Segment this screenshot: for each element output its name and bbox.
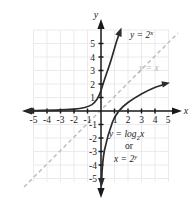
annotation-logarithm: y = log2x or x = 2y xyxy=(108,129,145,164)
log-alt-label-exponent: y xyxy=(133,153,138,160)
exponential-label-exponent: x xyxy=(149,29,153,36)
x-tick-5: 5 xyxy=(166,115,171,125)
x-tick-3: 3 xyxy=(139,115,144,125)
y-axis-arrow-down xyxy=(97,188,104,198)
y-tick--2: -2 xyxy=(89,134,97,144)
x-tick-labels: -5 -4 -3 -2 -1 1 2 3 4 5 xyxy=(30,115,171,125)
svg-text:x = 2y: x = 2y xyxy=(113,153,138,165)
y-tick-2: 2 xyxy=(90,80,95,90)
y-tick--1: -1 xyxy=(89,120,97,130)
x-tick--2: -2 xyxy=(70,115,78,125)
graph-figure: -5 -4 -3 -2 -1 1 2 3 4 5 5 4 3 2 1 -1 -2… xyxy=(0,0,196,207)
y-tick-3: 3 xyxy=(90,66,95,76)
svg-text:y = 2x: y = 2x xyxy=(129,29,153,41)
logarithmic-asymptote-arrow xyxy=(98,178,105,188)
x-tick-2: 2 xyxy=(126,115,131,125)
identity-label: y = x xyxy=(138,63,159,73)
y-axis-arrow-up xyxy=(97,19,104,29)
svg-text:y = log2x: y = log2x xyxy=(108,129,145,141)
y-tick--4: -4 xyxy=(89,161,97,171)
y-tick-4: 4 xyxy=(90,53,95,63)
y-axis-label: y xyxy=(93,9,99,20)
x-tick--4: -4 xyxy=(43,115,51,125)
graph-canvas: -5 -4 -3 -2 -1 1 2 3 4 5 5 4 3 2 1 -1 -2… xyxy=(0,0,196,207)
x-tick-4: 4 xyxy=(153,115,158,125)
y-tick-5: 5 xyxy=(90,39,95,49)
x-tick--3: -3 xyxy=(57,115,65,125)
log-label-or: or xyxy=(125,141,134,151)
y-tick--5: -5 xyxy=(89,174,97,184)
annotation-exponential: y = 2x xyxy=(129,29,153,41)
y-tick--3: -3 xyxy=(89,147,97,157)
x-tick-1: 1 xyxy=(113,115,118,125)
log-alt-label-prefix: x = 2 xyxy=(113,154,134,164)
x-axis-label: x xyxy=(183,105,189,116)
exponential-label-base: y = 2 xyxy=(129,30,150,40)
y-tick-1: 1 xyxy=(90,93,95,103)
exponential-curve-arrow xyxy=(115,28,121,38)
x-axis-arrow-right xyxy=(172,107,182,114)
log-label-prefix: y = log xyxy=(108,129,137,139)
x-tick--5: -5 xyxy=(30,115,38,125)
annotation-identity: y = x xyxy=(138,63,159,73)
log-label-suffix: x xyxy=(139,129,145,139)
